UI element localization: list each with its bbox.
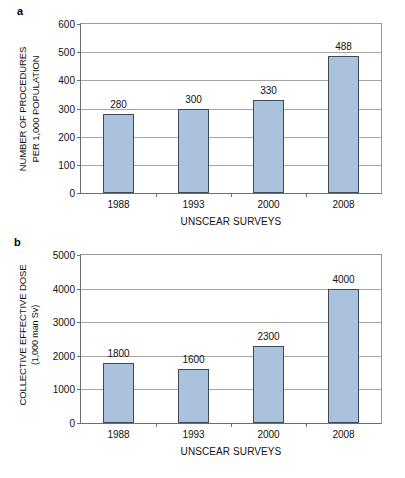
bar-value-label-1988: 280 [110,99,127,110]
x-tick-mark [306,423,307,427]
panel-b-y-axis-title: COLLECTIVE EFFECTIVE DOSE (1,000 man Sv) [16,245,42,425]
panel-a-x-tick-label-1988: 1988 [107,199,129,210]
bar-1993 [178,369,209,423]
figure-two-bar-charts: a NUMBER OF PROCEDURES PER 1,000 POPULAT… [0,0,405,478]
bar-2000 [253,346,284,423]
panel-a-y-tick-label: 100 [58,159,81,170]
bar-2008 [328,56,359,193]
panel-a-x-axis-title: UNSCEAR SURVEYS [80,216,382,227]
bar-value-label-1993: 300 [185,94,202,105]
panel-b-x-tick-label-1988: 1988 [107,429,129,440]
panel-b-y-tick-label: 4000 [53,283,81,294]
panel-a-label: a [17,5,23,17]
panel-a-y-axis-title-line1: NUMBER OF PROCEDURES [16,20,29,198]
x-tick-mark [156,193,157,197]
panel-b-y-tick-label: 2000 [53,350,81,361]
panel-a: a NUMBER OF PROCEDURES PER 1,000 POPULAT… [0,0,405,232]
panel-b-x-tick-label-1993: 1993 [182,429,204,440]
bar-2008 [328,289,359,423]
panel-b-y-tick-label: 5000 [53,250,81,261]
x-tick-mark [306,193,307,197]
gridline [81,52,381,53]
panel-a-x-tick-label-2000: 2000 [257,199,279,210]
panel-a-x-tick-label-2008: 2008 [332,199,354,210]
panel-b-y-tick-label: 1000 [53,384,81,395]
panel-b-y-axis-title-line2: (1,000 man Sv) [29,245,42,425]
panel-a-x-tick-label-1993: 1993 [182,199,204,210]
x-tick-mark [231,423,232,427]
bar-value-label-1988: 1800 [107,348,129,359]
panel-b-y-tick-label: 3000 [53,317,81,328]
bar-1993 [178,109,209,194]
panel-a-plot-area: 0100200300400500600280198830019933302000… [80,23,382,194]
panel-a-y-tick-label: 400 [58,75,81,86]
panel-a-y-tick-label: 200 [58,131,81,142]
panel-b-y-tick-label: 0 [69,418,81,429]
panel-b-x-axis-title: UNSCEAR SURVEYS [80,446,382,457]
bar-1988 [103,114,134,193]
bar-value-label-2008: 488 [335,41,352,52]
panel-a-y-tick-label: 300 [58,103,81,114]
x-tick-mark [156,423,157,427]
bar-1988 [103,363,134,423]
panel-b-x-tick-label-2008: 2008 [332,429,354,440]
bar-value-label-2000: 2300 [257,331,279,342]
panel-b: b COLLECTIVE EFFECTIVE DOSE (1,000 man S… [0,232,405,478]
panel-b-x-tick-label-2000: 2000 [257,429,279,440]
panel-a-y-tick-label: 0 [69,188,81,199]
panel-a-y-tick-label: 500 [58,47,81,58]
x-tick-mark [231,193,232,197]
bar-value-label-1993: 1600 [182,354,204,365]
panel-a-y-axis-title-line2: PER 1,000 POPULATION [29,20,42,198]
bar-2000 [253,100,284,193]
panel-b-y-axis-title-line1: COLLECTIVE EFFECTIVE DOSE [16,245,29,425]
bar-value-label-2008: 4000 [332,274,354,285]
bar-value-label-2000: 330 [260,85,277,96]
panel-a-y-tick-label: 600 [58,19,81,30]
panel-b-plot-area: 0100020003000400050001800198816001993230… [80,254,382,424]
panel-a-y-axis-title: NUMBER OF PROCEDURES PER 1,000 POPULATIO… [16,20,42,198]
